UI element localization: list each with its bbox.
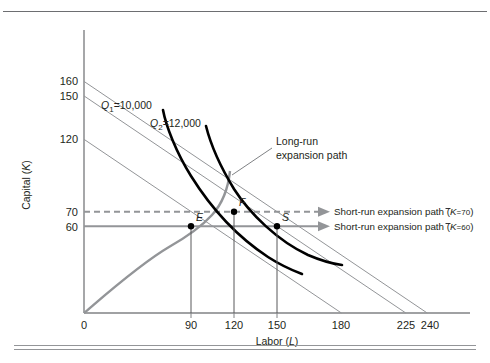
isoquant-label-q2-rest: =12,000: [163, 117, 201, 129]
long-run-label-group: Long-run expansion path: [232, 135, 347, 175]
expansion-path-chart: E F S 160 150 120 70 60 0 90 120 150 180…: [0, 0, 490, 363]
point-label-e: E: [196, 211, 204, 223]
bottom-rule-lower: [14, 349, 476, 350]
isoquant-q2-curve: [206, 126, 342, 265]
bottom-rule-upper: [14, 345, 476, 346]
legend-short-run-70-label: Short-run expansion path (K=70): [334, 206, 473, 217]
point-labels-group: E F S: [196, 196, 289, 223]
y-tick-label-120: 120: [60, 133, 78, 145]
legend-70-prefix: Short-run expansion path (: [334, 206, 451, 217]
x-tick-label-120: 120: [225, 319, 243, 331]
isoquant-label-q1-base: Q: [101, 99, 109, 111]
y-axis-title: Capital (K): [20, 160, 32, 210]
legend-60-suffix: ): [470, 221, 473, 232]
y-tick-label-160: 160: [60, 75, 78, 87]
long-run-expansion-path-group: [84, 171, 230, 313]
leader-line-long-run: [232, 148, 272, 175]
isoquant-label-q1: Q1=10,000: [101, 99, 152, 114]
x-tick-labels-group: 0 90 120 150 180 225 240: [81, 319, 439, 331]
legend-group: Short-run expansion path (K=70) Short-ru…: [334, 206, 473, 232]
y-tick-labels-group: 160 150 120 70 60: [60, 75, 78, 233]
point-marker-s: [274, 223, 280, 229]
short-run-path-k60-arrow: [318, 221, 330, 231]
point-marker-e: [188, 223, 194, 229]
x-tick-label-240: 240: [421, 319, 439, 331]
y-tick-label-150: 150: [60, 90, 78, 102]
long-run-expansion-path-label-line2: expansion path: [276, 149, 347, 161]
isoquant-label-q1-rest: =10,000: [114, 99, 152, 111]
x-tick-label-0: 0: [81, 319, 87, 331]
y-axis-title-prefix: Capital (: [20, 170, 32, 210]
x-tick-label-180: 180: [332, 319, 350, 331]
short-run-path-k70-arrow: [318, 207, 330, 217]
y-tick-label-70: 70: [66, 206, 78, 218]
y-axis-title-suffix: ): [20, 160, 32, 164]
legend-70-value: =70: [457, 208, 471, 217]
isocost-line-c3: [84, 81, 427, 313]
isocost-lines-group: [84, 81, 427, 313]
point-label-s: S: [282, 211, 289, 223]
point-label-f: F: [239, 196, 246, 208]
x-tick-label-150: 150: [268, 319, 286, 331]
long-run-expansion-path-curve: [84, 171, 230, 313]
legend-60-value: =60: [457, 223, 471, 232]
legend-60-prefix: Short-run expansion path (: [334, 221, 451, 232]
y-tick-label-60: 60: [66, 221, 78, 233]
isoquant-label-q2: Q2=12,000: [150, 117, 201, 132]
legend-70-suffix: ): [470, 206, 473, 217]
x-tick-label-90: 90: [185, 319, 197, 331]
x-ticks-group: [191, 313, 277, 318]
point-marker-f: [231, 209, 237, 215]
x-tick-label-225: 225: [397, 319, 415, 331]
isoquant-label-q2-base: Q: [150, 117, 158, 129]
long-run-expansion-path-label-line1: Long-run: [276, 135, 318, 147]
legend-short-run-60-label: Short-run expansion path (K=60): [334, 221, 473, 232]
figure-container: E F S 160 150 120 70 60 0 90 120 150 180…: [0, 0, 490, 363]
